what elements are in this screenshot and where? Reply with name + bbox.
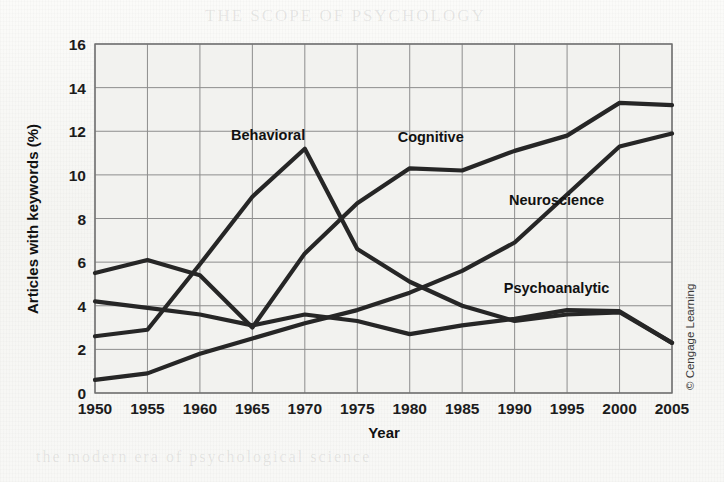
x-tick-1970: 1970 [288,400,322,417]
y-tick-6: 6 [77,254,86,271]
x-tick-2005: 2005 [655,400,690,417]
series-label-cognitive: Cognitive [398,129,464,145]
x-tick-1995: 1995 [550,400,585,417]
publisher-credit: © Cengage Learning [684,284,696,390]
x-axis-title: Year [368,424,400,441]
y-tick-16: 16 [69,36,87,53]
series-label-neuroscience: Neuroscience [509,192,604,208]
x-tick-1975: 1975 [340,400,375,417]
x-tick-2000: 2000 [602,400,636,417]
y-tick-2: 2 [77,341,86,358]
x-tick-1985: 1985 [445,400,480,417]
x-tick-1980: 1980 [392,400,426,417]
x-axis-tick-labels: 1950 1955 1960 1965 1970 1975 1980 1985 … [78,400,690,417]
x-tick-1965: 1965 [235,400,270,417]
x-tick-1960: 1960 [183,400,217,417]
y-tick-10: 10 [69,167,86,184]
series-label-behavioral: Behavioral [231,127,305,143]
y-tick-14: 14 [69,80,87,97]
y-tick-4: 4 [77,298,86,315]
y-axis-tick-labels: 16 14 12 10 8 6 4 2 0 [69,36,87,402]
y-tick-8: 8 [77,211,86,228]
series-label-psychoanalytic: Psychoanalytic [504,280,610,296]
figure-page: THE SCOPE OF PSYCHOLOGY the modern era o… [0,0,724,482]
line-chart: 16 14 12 10 8 6 4 2 0 1950 1955 1960 196… [0,0,724,482]
x-tick-1990: 1990 [497,400,531,417]
x-tick-1950: 1950 [78,400,112,417]
x-tick-1955: 1955 [130,400,165,417]
y-axis-title: Articles with keywords (%) [24,124,41,314]
y-tick-12: 12 [69,123,86,140]
